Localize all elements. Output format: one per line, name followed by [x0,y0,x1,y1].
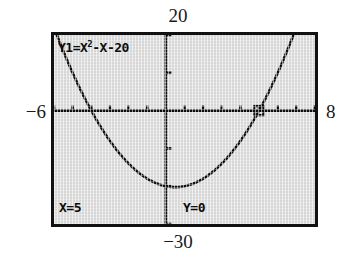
window-xmin-label: −6 [8,102,46,121]
trace-x-readout: X=5 [59,201,81,214]
plot-axes [54,35,315,224]
equation-prefix: Y1=X [58,40,87,55]
trace-y-readout: Y=0 [183,201,205,214]
window-ymin-label: −30 [0,232,356,251]
window-xmax-label: 8 [326,102,352,121]
calculator-graph-screen[interactable]: Y1=X2-X-20 X=5 Y=0 [51,32,318,227]
equation-suffix: -X-20 [92,40,129,55]
parabola-plot [54,35,315,224]
window-ymax-label: 20 [0,6,356,25]
equation-label: Y1=X2-X-20 [58,40,129,54]
